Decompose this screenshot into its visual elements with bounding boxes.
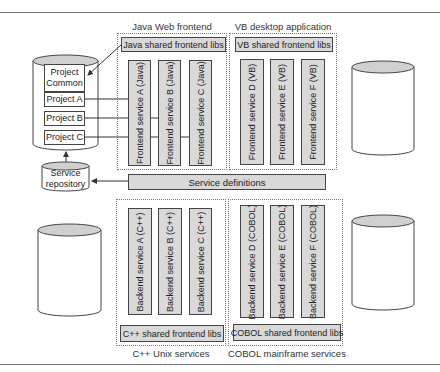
frontend-service-d-label: Frontend service D (VB) [247, 64, 257, 161]
vb-shared-libs: VB shared frontend libs [235, 37, 333, 52]
backend-service-d-label: Backend service D (COBOL) [247, 204, 257, 319]
frontend-service-c: Frontend service C (Java) [189, 60, 212, 166]
backend-service-d: Backend service D (COBOL) [240, 205, 264, 318]
cpp-shared-libs: C++ shared frontend libs [120, 325, 224, 342]
backend-service-c: Backend service C (C++) [189, 208, 212, 315]
cobol-group-label: COBOL mainframe services [228, 348, 343, 359]
project-c-box: Project C [44, 130, 85, 145]
project-b-box: Project B [44, 111, 85, 126]
bottom-rule [0, 364, 440, 365]
frontend-service-a: Frontend service A (Java) [128, 60, 151, 166]
frontend-service-f-label: Frontend service F (VB) [308, 64, 318, 160]
backend-service-f: Backend service F (COBOL) [301, 205, 325, 318]
top-rule [0, 12, 440, 13]
java-shared-libs: Java shared frontend libs [121, 37, 226, 52]
backend-service-b-label: Backend service B (C++) [165, 211, 175, 311]
frontend-service-e-label: Frontend service E (VB) [277, 64, 287, 160]
cobol-shared-libs: COBOL shared frontend libs [233, 324, 341, 341]
java-group-label: Java Web frontend [117, 21, 227, 32]
project-a-box: Project A [44, 92, 85, 107]
service-repository-label: Service repository [44, 168, 87, 190]
vb-group-label: VB desktop application [229, 21, 337, 32]
database-cylinder-bottom-left [38, 224, 101, 316]
backend-service-a: Backend service A (C++) [128, 208, 152, 315]
service-definitions: Service definitions [128, 174, 326, 190]
frontend-service-a-label: Frontend service A (Java) [135, 62, 145, 164]
frontend-service-f: Frontend service F (VB) [301, 59, 325, 165]
frontend-service-e: Frontend service E (VB) [270, 59, 294, 165]
database-cylinder-bottom-right [352, 215, 414, 310]
cpp-group-label: C++ Unix services [116, 348, 226, 359]
frontend-service-b-label: Frontend service B (Java) [165, 61, 175, 164]
project-common-box: Project Common [44, 64, 85, 92]
backend-service-c-label: Backend service C (C++) [196, 211, 206, 312]
backend-service-e: Backend service E (COBOL) [270, 205, 294, 318]
frontend-service-c-label: Frontend service C (Java) [196, 61, 206, 165]
backend-service-a-label: Backend service A (C++) [135, 212, 145, 311]
frontend-service-d: Frontend service D (VB) [240, 59, 264, 165]
backend-service-f-label: Backend service F (COBOL) [308, 204, 318, 318]
backend-service-e-label: Backend service E (COBOL) [277, 204, 287, 319]
backend-service-b: Backend service B (C++) [158, 208, 182, 315]
frontend-service-b: Frontend service B (Java) [158, 60, 181, 166]
database-cylinder-top-right [352, 61, 414, 155]
